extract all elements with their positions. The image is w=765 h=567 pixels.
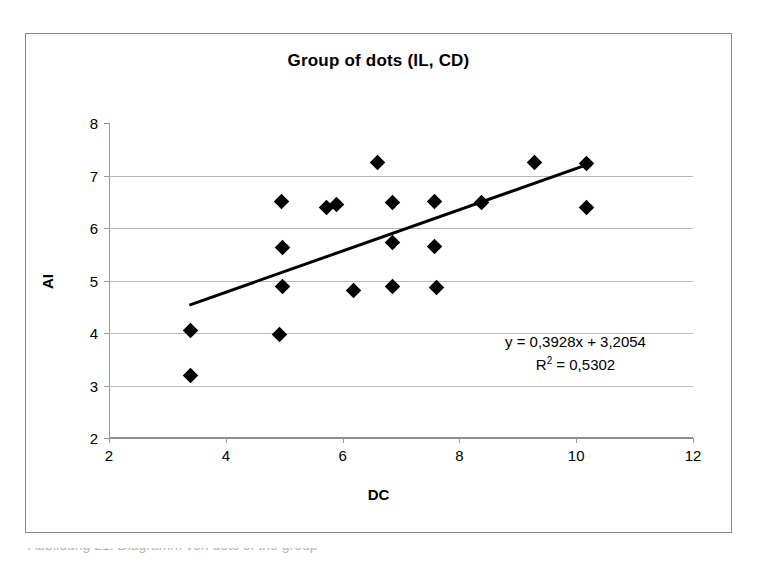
r-squared-number: = 0,5302 [552, 356, 615, 373]
y-tick-label: 3 [90, 377, 98, 394]
plot-area: 2345678 24681012 y = 0,3928x + 3,2054 R2… [109, 123, 693, 438]
data-point [428, 280, 444, 296]
y-tick-label: 2 [90, 430, 98, 447]
trendline-equation-annotation: y = 0,3928x + 3,2054 R2 = 0,5302 [505, 330, 646, 377]
x-tick-mark [226, 438, 227, 443]
x-tick-mark [576, 438, 577, 443]
y-tick-mark [104, 123, 109, 124]
chart-title: Group of dots (IL, CD) [26, 51, 731, 71]
regression-equation: y = 0,3928x + 3,2054 [505, 330, 646, 353]
x-tick-mark [109, 438, 110, 443]
data-point [527, 155, 543, 171]
y-tick-label: 5 [90, 272, 98, 289]
x-tick-label: 2 [105, 447, 113, 464]
data-point [370, 155, 386, 171]
x-tick-label: 10 [568, 447, 585, 464]
data-point [183, 367, 199, 383]
data-point [275, 240, 291, 256]
x-axis-title: DC [26, 486, 731, 503]
data-point [385, 235, 401, 251]
r-squared-value: R2 = 0,5302 [505, 353, 646, 376]
y-axis-title: AI [39, 274, 56, 289]
y-tick-label: 7 [90, 167, 98, 184]
y-tick-mark [104, 333, 109, 334]
data-point [579, 156, 595, 172]
data-point [427, 194, 443, 210]
x-tick-label: 12 [685, 447, 702, 464]
x-tick-mark [459, 438, 460, 443]
data-point [385, 195, 401, 211]
y-tick-mark [104, 228, 109, 229]
x-tick-label: 4 [222, 447, 230, 464]
figure-frame: Group of dots (IL, CD) AI DC 2345678 246… [25, 33, 732, 533]
y-tick-mark [104, 176, 109, 177]
figure-caption-text: Abbildung 21. Diagramm von dots of the g… [28, 548, 728, 553]
x-tick-mark [343, 438, 344, 443]
x-tick-mark [693, 438, 694, 443]
gridline [109, 228, 693, 229]
data-point [578, 200, 594, 216]
data-point [183, 323, 199, 339]
data-point [273, 194, 289, 210]
data-point [345, 283, 361, 299]
r-squared-symbol: R [536, 356, 547, 373]
y-tick-mark [104, 281, 109, 282]
data-point [272, 327, 288, 343]
y-tick-mark [104, 386, 109, 387]
gridline [109, 176, 693, 177]
gridline [109, 281, 693, 282]
x-tick-label: 8 [455, 447, 463, 464]
gridline [109, 386, 693, 387]
figure-caption: Abbildung 21. Diagramm von dots of the g… [28, 548, 728, 567]
y-tick-label: 8 [90, 115, 98, 132]
y-tick-label: 6 [90, 220, 98, 237]
data-point [427, 239, 443, 255]
x-tick-label: 6 [338, 447, 346, 464]
y-tick-label: 4 [90, 325, 98, 342]
gridline [109, 438, 693, 439]
data-point [473, 195, 489, 211]
